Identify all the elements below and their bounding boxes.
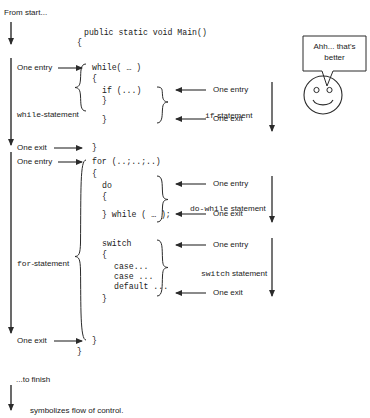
code-for-close-brace: } <box>92 336 97 346</box>
label-switch-statement-keyword: switch <box>201 269 230 278</box>
label-if-one-entry: One entry <box>213 85 248 94</box>
code-while-block-close: } <box>92 143 97 153</box>
legend-label: symbolizes flow of control. <box>30 406 123 415</box>
label-while-one-exit: One exit <box>17 143 47 152</box>
code-method-signature: public static void Main() <box>84 28 207 38</box>
code-switch-keyword: switch <box>102 239 131 249</box>
smiley-face <box>304 76 342 114</box>
code-method-close-brace: } <box>77 347 82 357</box>
brace-for-statement <box>75 160 86 340</box>
label-while-statement-keyword: while <box>17 110 41 119</box>
label-if-one-exit: One exit <box>213 114 243 123</box>
label-dowhile-one-exit: One exit <box>213 209 243 218</box>
code-method-open-brace: { <box>77 38 82 48</box>
label-for-statement-keyword: for <box>17 259 31 268</box>
label-while-statement-suffix: -statement <box>41 110 79 119</box>
speech-bubble-line1: Ahh... that's <box>303 42 366 51</box>
code-for-open-brace: { <box>92 169 97 179</box>
code-do-open-brace: { <box>102 192 107 202</box>
label-switch-statement-suffix: statement <box>230 269 267 278</box>
label-for-one-entry: One entry <box>17 157 52 166</box>
label-for-statement: for-statement <box>17 252 69 270</box>
label-while-one-entry: One entry <box>17 63 52 72</box>
to-finish-label: ...to finish <box>16 375 50 384</box>
code-if-line: if (...) <box>102 86 141 96</box>
code-while-open-brace: { <box>92 74 97 84</box>
brace-if-statement <box>157 87 168 123</box>
speech-bubble-text: Ahh... that's better <box>303 42 366 62</box>
code-switch-close-brace: } <box>102 294 107 304</box>
code-case-2: case ... <box>114 272 153 282</box>
label-switch-one-entry: One entry <box>213 240 248 249</box>
code-do-keyword: do <box>102 181 112 191</box>
code-while-header: while( … ) <box>92 63 141 73</box>
label-for-one-exit: One exit <box>17 336 47 345</box>
code-while-close-brace: } <box>102 115 107 125</box>
diagram-canvas <box>0 0 370 418</box>
code-default-line: default ... <box>114 282 168 292</box>
from-start-label: From start... <box>4 8 47 17</box>
code-if-close-brace: } <box>102 96 107 106</box>
code-for-header: for (..;..;..) <box>92 157 161 167</box>
label-switch-statement: switch statement <box>201 262 267 280</box>
code-do-while-tail: } while ( … ); <box>102 210 171 220</box>
label-while-statement: while-statement <box>17 103 79 121</box>
label-switch-one-exit: One exit <box>213 288 243 297</box>
speech-bubble-line2: better <box>303 53 366 62</box>
code-switch-open-brace: { <box>102 250 107 260</box>
code-case-1: case... <box>114 262 148 272</box>
label-dowhile-one-entry: One entry <box>213 179 248 188</box>
label-for-statement-suffix: -statement <box>31 259 69 268</box>
